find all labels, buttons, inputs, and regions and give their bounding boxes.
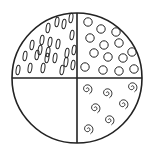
oval-shape — [44, 53, 49, 63]
spiral-shape — [106, 116, 114, 125]
circle-shape — [115, 67, 123, 75]
circle-shape — [90, 49, 98, 57]
oval-shape — [27, 63, 32, 73]
oval-shape — [15, 65, 20, 75]
circle-shape — [86, 34, 94, 42]
oval-shape — [59, 65, 64, 75]
quadrant-top-right-circles — [81, 18, 138, 75]
oval-shape — [45, 47, 50, 57]
circle-shape — [104, 53, 112, 61]
oval-shape — [69, 30, 74, 40]
oval-shape — [45, 23, 50, 33]
oval-shape — [70, 60, 75, 70]
oval-shape — [55, 39, 60, 49]
oval-shape — [68, 13, 73, 23]
oval-shape — [47, 37, 52, 47]
oval-shape — [71, 45, 76, 55]
spiral-shape — [84, 85, 92, 94]
quartered-circle-diagram — [0, 0, 152, 156]
oval-shape — [34, 50, 39, 60]
oval-shape — [64, 48, 69, 58]
spiral-shape — [129, 83, 137, 92]
circle-shape — [97, 25, 105, 33]
oval-shape — [40, 63, 45, 73]
oval-shape — [61, 19, 66, 29]
circle-shape — [115, 39, 123, 47]
circle-shape — [100, 41, 108, 49]
spiral-shape — [85, 125, 93, 134]
oval-shape — [22, 51, 27, 61]
quadrant-bottom-right-spirals — [84, 83, 137, 134]
circle-shape — [84, 18, 92, 26]
spiral-shape — [92, 104, 100, 113]
circle-shape — [99, 66, 107, 74]
oval-shape — [52, 53, 57, 63]
quadrant-top-left-ovals — [15, 13, 76, 75]
spiral-shape — [120, 100, 128, 109]
circle-shape — [81, 63, 89, 71]
circle-shape — [130, 65, 138, 73]
spiral-shape — [104, 89, 112, 98]
oval-shape — [39, 35, 44, 45]
circle-shape — [119, 54, 127, 62]
oval-shape — [54, 17, 59, 27]
oval-shape — [29, 40, 34, 50]
oval-shape — [63, 57, 68, 67]
